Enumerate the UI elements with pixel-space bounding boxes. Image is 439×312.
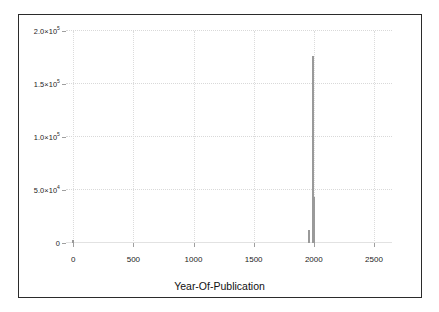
bar (313, 197, 315, 243)
y-tick-label: 1.0×105 (34, 133, 60, 142)
x-tick-label: 500 (127, 255, 140, 264)
x-tick-mark (374, 243, 375, 247)
x-tick-label: 1000 (185, 255, 203, 264)
x-tick-mark (254, 243, 255, 247)
x-tick-mark (194, 243, 195, 247)
x-tick-mark (73, 243, 74, 247)
gridline-horizontal (66, 83, 392, 84)
x-tick-mark (133, 243, 134, 247)
plot-area (66, 31, 392, 243)
x-tick-label: 0 (71, 255, 75, 264)
x-axis-label: Year-Of-Publication (0, 280, 439, 292)
gridline-vertical (133, 31, 134, 243)
y-tick-mark (62, 243, 66, 244)
gridline-vertical (254, 31, 255, 243)
x-tick-mark (314, 243, 315, 247)
y-tick-label: 5.0×104 (34, 186, 60, 195)
y-tick-label: 2.0×105 (34, 27, 60, 36)
y-tick-label: 0 (56, 239, 60, 248)
axis-baseline (66, 242, 392, 243)
gridline-horizontal (66, 30, 392, 31)
y-tick-label: 1.5×105 (34, 80, 60, 89)
gridline-vertical (73, 31, 74, 243)
bar (72, 240, 74, 243)
gridline-horizontal (66, 189, 392, 190)
x-tick-label: 2500 (365, 255, 383, 264)
x-tick-label: 2000 (305, 255, 323, 264)
bar (308, 230, 310, 243)
gridline-vertical (194, 31, 195, 243)
x-tick-label: 1500 (245, 255, 263, 264)
chart-figure: 05.0×1041.0×1051.5×1052.0×105 0500100015… (0, 0, 439, 312)
gridline-horizontal (66, 136, 392, 137)
gridline-vertical (374, 31, 375, 243)
